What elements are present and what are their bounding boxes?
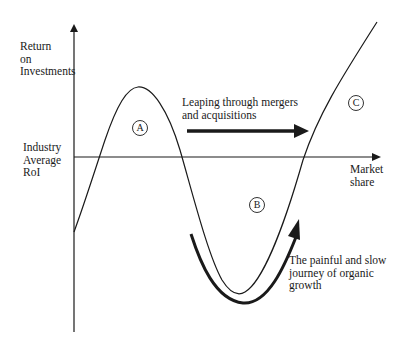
region-a-marker: A — [132, 120, 148, 136]
mergers-arrowhead — [294, 124, 309, 138]
x-axis-label: Market share — [350, 163, 383, 188]
x-axis-label-line: share — [350, 176, 383, 189]
y-axis-label-line: Investments — [20, 65, 76, 78]
region-b-marker: B — [249, 197, 265, 213]
roi-curve — [74, 22, 377, 294]
y-axis-label-line: on — [20, 53, 76, 66]
region-c-marker: C — [348, 95, 364, 111]
organic-annotation-line: journey of organic — [289, 267, 386, 280]
y-axis-label-line: Return — [20, 40, 76, 53]
y-axis-arrowhead — [70, 24, 78, 32]
mergers-annotation-line: and acquisitions — [182, 109, 298, 122]
mergers-annotation-line: Leaping through mergers — [182, 96, 298, 109]
y-axis-label: Return on Investments — [20, 40, 76, 78]
reference-label-line: Average — [23, 154, 61, 167]
organic-growth-arrowhead — [288, 219, 300, 240]
x-axis-arrowhead — [372, 153, 381, 161]
organic-annotation-line: growth — [289, 279, 386, 292]
industry-average-label: Industry Average RoI — [23, 141, 61, 179]
mergers-annotation: Leaping through mergers and acquisitions — [182, 96, 298, 121]
organic-growth-annotation: The painful and slow journey of organic … — [289, 254, 386, 292]
organic-annotation-line: The painful and slow — [289, 254, 386, 267]
reference-label-line: RoI — [23, 166, 61, 179]
reference-label-line: Industry — [23, 141, 61, 154]
x-axis-label-line: Market — [350, 163, 383, 176]
